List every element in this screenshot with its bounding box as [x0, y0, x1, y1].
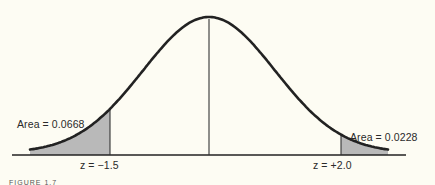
left-z-label: z = −1.5 — [80, 159, 119, 171]
left-area-label: Area = 0.0668 — [17, 118, 85, 130]
figure-caption: FIGURE 1.7 — [9, 179, 57, 185]
right-area-label: Area = 0.0228 — [350, 131, 418, 143]
normal-curve-diagram — [0, 0, 435, 185]
right-z-label: z = +2.0 — [313, 159, 352, 171]
